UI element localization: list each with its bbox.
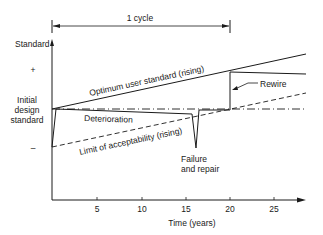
cycle-label: 1 cycle xyxy=(127,13,154,23)
y-axis-arrow-icon xyxy=(50,39,54,46)
x-axis-label: Time (years) xyxy=(168,218,216,228)
life-cycle-diagram: 1 cycle 5 10 15 20 25 Time (years) Stand… xyxy=(0,0,323,235)
rewire-label: Rewire xyxy=(260,79,287,89)
x-tick-25: 25 xyxy=(269,204,279,214)
failure-label-line-2: and repair xyxy=(181,164,219,174)
initial-label-line-1: Initial xyxy=(17,95,37,105)
initial-label-line-3: standard xyxy=(10,115,43,125)
failure-label-line-1: Failure xyxy=(181,154,207,164)
deterioration-label: Deterioration xyxy=(84,113,133,125)
x-tick-20: 20 xyxy=(225,204,235,214)
initial-label-line-2: design xyxy=(14,105,39,115)
x-tick-15: 15 xyxy=(181,204,191,214)
rewire-leader xyxy=(235,83,258,89)
minus-label: – xyxy=(31,143,36,153)
optimum-label: Optimum user standard (rising) xyxy=(88,63,205,98)
plus-label: + xyxy=(31,65,36,75)
x-tick-10: 10 xyxy=(137,204,147,214)
x-axis-arrow-icon xyxy=(297,198,306,203)
y-axis-label: Standard xyxy=(15,39,50,49)
x-tick-5: 5 xyxy=(95,204,100,214)
rewire-arrow-icon xyxy=(232,86,238,90)
